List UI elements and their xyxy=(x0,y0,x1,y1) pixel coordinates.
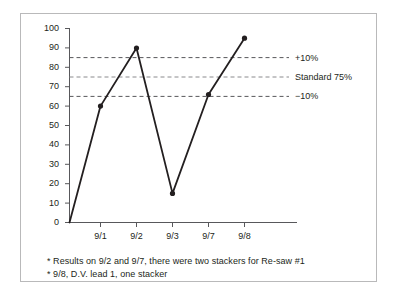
x-tick-label-9-8: 9/8 xyxy=(228,232,262,241)
y-tick-label-30: 30 xyxy=(33,160,59,169)
y-tick-label-50: 50 xyxy=(33,121,59,130)
chart-figure: 100 90 80 70 60 50 40 30 20 10 0 9/1 9/2… xyxy=(0,0,398,297)
y-tick-label-80: 80 xyxy=(33,63,59,72)
y-tick-label-100: 100 xyxy=(33,24,59,33)
reference-label-standard: Standard 75% xyxy=(295,73,352,82)
x-tick-label-9-1: 9/1 xyxy=(84,232,118,241)
reference-label-upper: +10% xyxy=(295,54,318,63)
y-tick-label-90: 90 xyxy=(33,43,59,52)
reference-label-lower: −10% xyxy=(295,92,318,101)
footnote-line-2: * 9/8, D.V. lead 1, one stacker xyxy=(47,268,167,280)
x-tick-label-9-7: 9/7 xyxy=(192,232,226,241)
y-tick-label-10: 10 xyxy=(33,199,59,208)
data-point-marker xyxy=(98,104,103,109)
y-tick-label-20: 20 xyxy=(33,179,59,188)
y-axis-ticks xyxy=(65,29,70,223)
y-tick-label-60: 60 xyxy=(33,102,59,111)
data-point-marker xyxy=(242,36,247,41)
data-point-marker xyxy=(206,92,211,97)
data-line xyxy=(70,38,245,222)
y-tick-label-70: 70 xyxy=(33,82,59,91)
x-axis-ticks xyxy=(101,223,245,228)
x-tick-label-9-2: 9/2 xyxy=(120,232,154,241)
data-markers xyxy=(98,36,247,196)
data-point-marker xyxy=(134,45,139,50)
chart-frame: 100 90 80 70 60 50 40 30 20 10 0 9/1 9/2… xyxy=(20,13,377,282)
y-tick-label-40: 40 xyxy=(33,140,59,149)
x-tick-label-9-3: 9/3 xyxy=(156,232,190,241)
footnote-line-1: * Results on 9/2 and 9/7, there were two… xyxy=(47,255,305,267)
data-point-marker xyxy=(170,191,175,196)
y-tick-label-0: 0 xyxy=(33,218,59,227)
